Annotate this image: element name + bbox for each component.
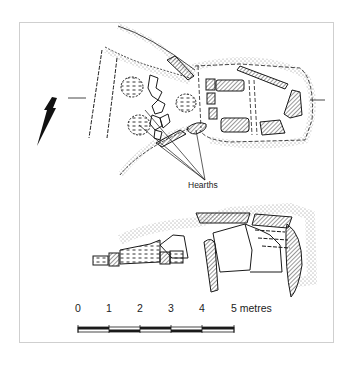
- site-plan-drawing: [0, 0, 354, 365]
- scale-tick-3: 3: [168, 302, 174, 314]
- scale-tick-0: 0: [75, 302, 81, 314]
- scale-bar: [78, 325, 234, 333]
- scale-tick-2: 2: [137, 302, 143, 314]
- scale-tick-4: 4: [199, 302, 205, 314]
- scale-tick-1: 1: [106, 302, 112, 314]
- elevation-view: [93, 208, 312, 297]
- north-arrow-icon: [37, 97, 57, 146]
- scale-label-5-metres: 5 metres: [231, 302, 272, 314]
- hearths-label: Hearths: [188, 180, 218, 190]
- plan-view: [68, 26, 325, 180]
